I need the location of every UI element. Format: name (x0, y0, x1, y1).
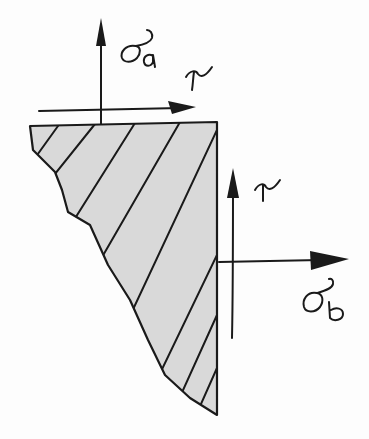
sigma-a-symbol: σ (120, 27, 139, 60)
diagram-svg (0, 0, 369, 439)
sigma-b-arrow (219, 251, 349, 270)
tau-right-symbol: τ (255, 174, 269, 204)
sigma-b-subscript: b (321, 296, 332, 316)
material-wedge (30, 122, 217, 415)
sigma-a-arrow (96, 18, 106, 124)
tau-top-symbol: τ (186, 62, 200, 92)
tau-top-arrow (39, 101, 196, 114)
sigma-a-subscript: a (139, 43, 149, 63)
tau-right-arrow (227, 168, 239, 338)
stress-diagram: σa τ τ σb (0, 0, 369, 439)
sigma-b-symbol: σ (302, 280, 321, 313)
